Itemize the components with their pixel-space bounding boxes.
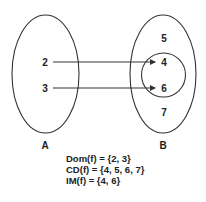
set-a-ellipse <box>12 15 79 133</box>
set-b-label: B <box>159 140 166 151</box>
set-b-element-6: 6 <box>161 83 167 94</box>
set-b-element-7: 7 <box>161 107 167 118</box>
set-a-element-3: 3 <box>42 83 48 94</box>
codomain-text: CD(f) = {4, 5, 6, 7} <box>66 164 144 175</box>
set-a-label: A <box>41 140 48 151</box>
set-a-element-2: 2 <box>42 57 48 68</box>
domain-text: Dom(f) = {2, 3} <box>66 153 144 164</box>
image-text: IM(f) = {4, 6} <box>66 175 144 186</box>
set-b-element-4: 4 <box>161 57 167 68</box>
set-b-element-5: 5 <box>161 33 167 44</box>
function-definitions: Dom(f) = {2, 3} CD(f) = {4, 5, 6, 7} IM(… <box>66 153 144 186</box>
